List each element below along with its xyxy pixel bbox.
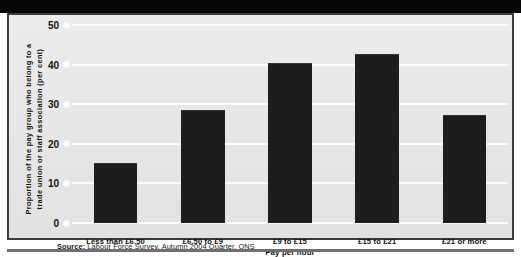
y-tick-mark-40: [64, 62, 69, 67]
x-category-label-5: £21 or more: [442, 237, 487, 246]
y-tick-mark-20: [64, 141, 69, 146]
y-tick-mark-50: [64, 23, 69, 28]
bar-4: [355, 54, 399, 223]
y-tick-label-40: 40: [48, 59, 59, 70]
y-axis-title-line1: Proportion of the pay group who belong t…: [23, 43, 34, 214]
plot-area: 01020304050Less than £6.50£6.50 to £9£9 …: [72, 25, 508, 223]
x-category-label-3: £9 to £15: [273, 237, 307, 246]
y-tick-mark-10: [64, 181, 69, 186]
y-tick-label-50: 50: [48, 20, 59, 31]
page-top-black-band: [0, 0, 521, 13]
y-axis-title: Proportion of the pay group who belong t…: [21, 29, 47, 229]
y-tick-label-0: 0: [53, 218, 59, 229]
bar-3: [268, 63, 312, 223]
y-tick-mark-30: [64, 102, 69, 107]
gridline-50: [72, 24, 508, 26]
bar-5: [443, 115, 487, 223]
y-tick-label-10: 10: [48, 178, 59, 189]
y-axis-title-line2: trade union or staff association (per ce…: [34, 49, 45, 210]
y-tick-label-20: 20: [48, 138, 59, 149]
chart-figure-frame: Proportion of the pay group who belong t…: [7, 13, 514, 240]
page-bottom-rule: [7, 249, 514, 252]
y-tick-label-30: 30: [48, 99, 59, 110]
y-tick-mark-0: [64, 221, 69, 226]
bar-2: [181, 110, 225, 223]
bar-1: [94, 163, 138, 223]
x-category-label-4: £15 to £21: [358, 237, 396, 246]
